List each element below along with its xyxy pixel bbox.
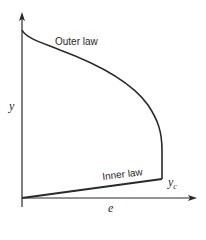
outer-law-curve [22, 30, 162, 150]
x-axis-label: e [108, 202, 113, 214]
inner-law-line [22, 179, 162, 198]
y-c-label: yc [168, 176, 177, 191]
outer-law-label: Outer law [55, 37, 98, 47]
y-axis-label: y [9, 100, 14, 112]
y-c-subscript: c [173, 182, 177, 191]
